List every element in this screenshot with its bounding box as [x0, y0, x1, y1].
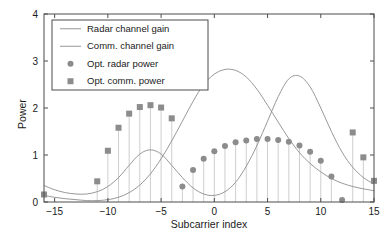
comm-power-marker: [94, 178, 100, 184]
comm-power-marker: [350, 129, 356, 135]
y-tick-label: 4: [20, 9, 38, 20]
y-tick-label: 0: [20, 197, 38, 208]
y-tick-label: 1: [20, 150, 38, 161]
comm-power-marker: [105, 148, 111, 154]
comm-power-marker: [126, 111, 132, 117]
y-tick-label: 3: [20, 56, 38, 67]
radar-power-marker: [318, 158, 324, 164]
radar-power-marker: [275, 137, 281, 143]
radar-power-marker: [286, 139, 292, 145]
x-tick-label: 5: [265, 206, 271, 217]
x-tick-label: 15: [368, 206, 379, 217]
radar-power-marker: [179, 183, 185, 189]
legend-circle-swatch: [68, 61, 74, 67]
radar-power-marker: [190, 167, 196, 173]
legend-item-label: Radar channel gain: [87, 23, 169, 34]
radar-power-marker: [233, 139, 239, 145]
x-tick-label: 10: [315, 206, 326, 217]
comm-power-marker: [137, 104, 143, 110]
chart-canvas: [0, 0, 390, 238]
radar-power-marker: [296, 143, 302, 149]
radar-power-marker: [243, 137, 249, 143]
x-tick-label: −10: [99, 206, 116, 217]
radar-power-marker: [328, 174, 334, 180]
radar-power-marker: [254, 136, 260, 142]
radar-power-marker: [211, 148, 217, 154]
y-axis-label: Power: [16, 79, 28, 149]
stem-lines-group: [44, 105, 374, 202]
comm-power-marker: [116, 125, 122, 131]
x-axis-label: Subcarrier index: [171, 218, 247, 230]
comm-power-marker: [147, 102, 153, 108]
chart-figure: −15−10−5051015 01234 Subcarrier index Po…: [0, 0, 390, 238]
legend-item-label: Opt. comm. power: [87, 75, 165, 86]
comm-power-marker: [360, 154, 366, 160]
radar-power-marker: [201, 156, 207, 162]
x-tick-label: 0: [212, 206, 218, 217]
radar-power-marker: [307, 149, 313, 155]
data-markers-group: [41, 102, 377, 203]
legend-square-swatch: [68, 78, 74, 84]
legend-item-label: Comm. channel gain: [87, 40, 174, 51]
comm-power-marker: [158, 105, 164, 111]
radar-power-marker: [222, 143, 228, 149]
comm-power-marker: [169, 115, 175, 121]
radar-power-marker: [265, 136, 271, 142]
x-tick-label: −5: [155, 206, 166, 217]
x-tick-label: −15: [46, 206, 63, 217]
curve-radar-gain: [44, 75, 374, 195]
legend-item-label: Opt. radar power: [87, 58, 158, 69]
